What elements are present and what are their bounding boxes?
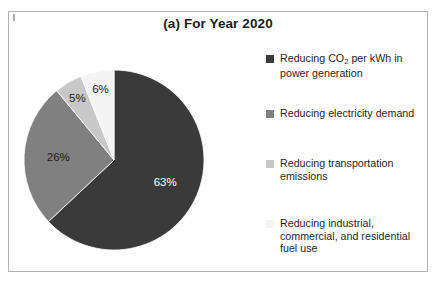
pie-slice-value-label: 26%: [47, 151, 70, 163]
pie-slice-value-label: 6%: [92, 83, 109, 95]
pie-slice-value-label: 5%: [69, 92, 86, 104]
legend-item-transportation-emissions[interactable]: Reducing transportation emissions: [266, 157, 426, 184]
legend-label-co2-power: Reducing CO2 per kWh in power generation: [280, 52, 426, 79]
pie-chart: 63%26%5%6%: [24, 66, 206, 254]
page-title: (a) For Year 2020: [8, 16, 428, 31]
legend-label-electricity-demand: Reducing electricity demand: [280, 107, 426, 122]
figure-root: (a) For Year 2020 63%26%5%6% Reducing CO…: [0, 0, 438, 284]
pie-slice-value-label: 63%: [154, 176, 177, 188]
legend-swatch-transportation-emissions: [266, 160, 274, 168]
legend-swatch-industrial-fuel-use: [266, 220, 274, 228]
legend-swatch-co2-power: [266, 55, 274, 63]
legend-item-electricity-demand[interactable]: Reducing electricity demand: [266, 107, 426, 122]
legend-swatch-electricity-demand: [266, 110, 274, 118]
pie-chart-svg: 63%26%5%6%: [24, 66, 206, 254]
legend-item-co2-power[interactable]: Reducing CO2 per kWh in power generation: [266, 52, 426, 79]
legend-item-industrial-fuel-use[interactable]: Reducing industrial, commercial, and res…: [266, 217, 426, 257]
legend-label-industrial-fuel-use: Reducing industrial, commercial, and res…: [280, 217, 426, 257]
legend-label-transportation-emissions: Reducing transportation emissions: [280, 157, 426, 184]
